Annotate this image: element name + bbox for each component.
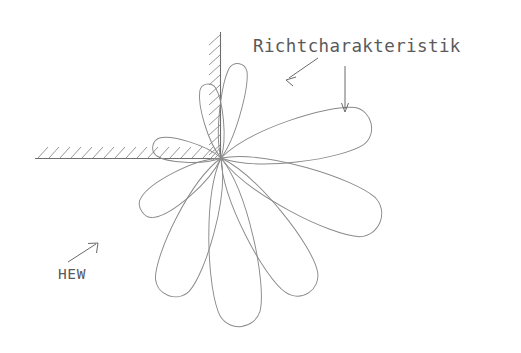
richtcharakteristik-label: Richtcharakteristik — [253, 36, 461, 56]
lobe-lower-right-big — [211, 134, 389, 245]
lobe-lower-right-mid — [201, 145, 328, 305]
lobe-group — [133, 62, 389, 330]
wall-horizontal-hatching — [38, 147, 221, 158]
lobe-up-right-steep — [210, 62, 251, 161]
hew-direction-arrow — [68, 243, 98, 262]
lobe-down-left — [148, 150, 242, 303]
arrow-to-main-lobe — [342, 66, 349, 112]
lobe-main-right — [216, 101, 376, 181]
arrow-to-upper-lobe — [286, 58, 318, 86]
hew-label: HEW — [58, 266, 86, 282]
lobe-down-center — [197, 155, 266, 329]
diagram-canvas: Richtcharakteristik HEW — [0, 0, 521, 353]
wall-group — [35, 32, 221, 160]
